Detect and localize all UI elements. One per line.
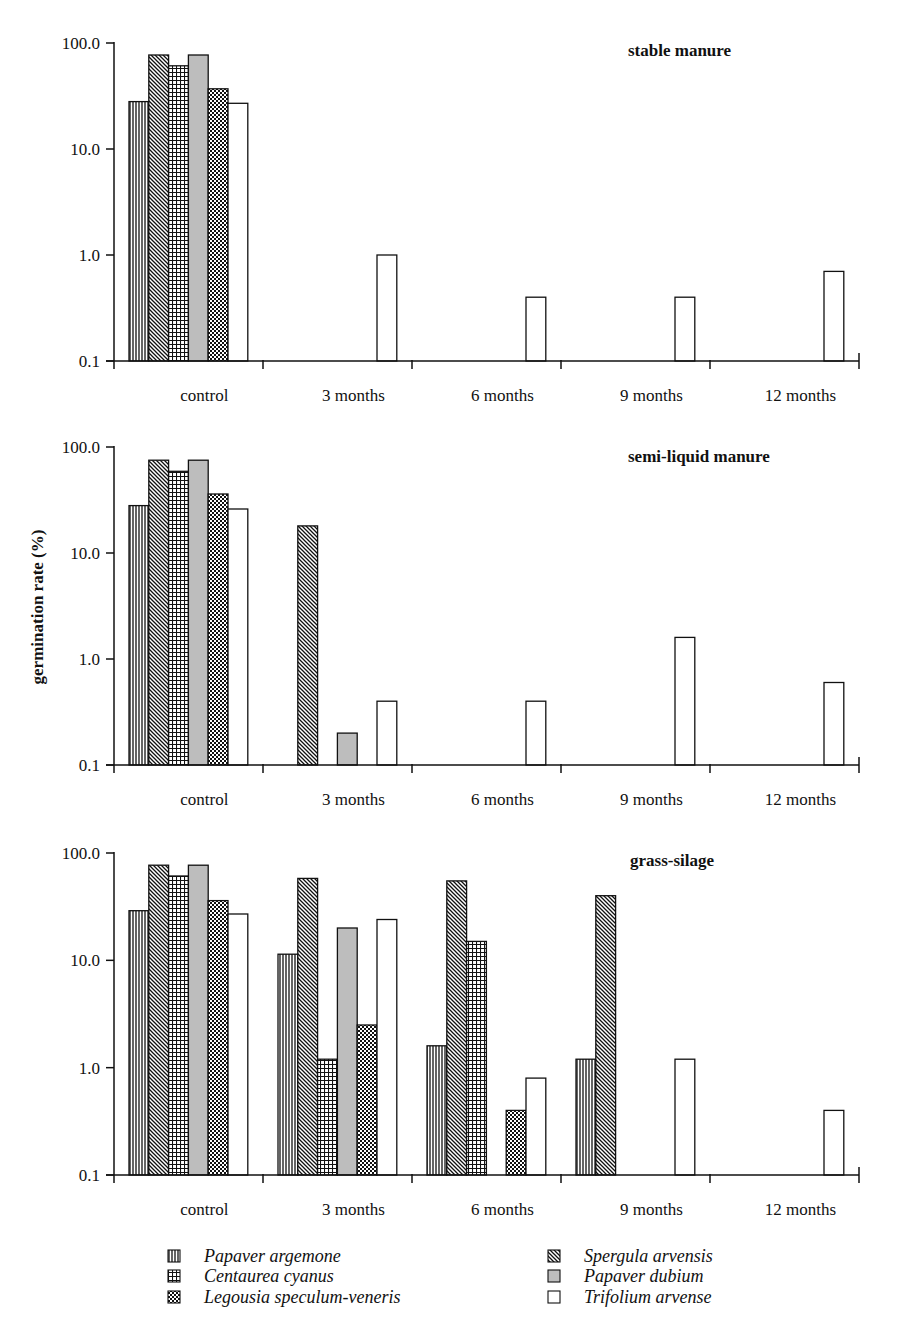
y-tick-label: 0.1 (79, 1166, 100, 1185)
x-tick-label: 9 months (620, 386, 683, 405)
legend-label: Trifolium arvense (584, 1287, 712, 1307)
x-tick-label: 12 months (765, 790, 836, 809)
bar-centaurea-cyanus-6-months (467, 941, 487, 1175)
y-tick-label: 100.0 (62, 438, 100, 457)
bar-legousia-speculum-veneris-control (208, 494, 228, 765)
bar-trifolium-arvense-3-months (377, 255, 397, 361)
bar-papaver-argemone-9-months (576, 1059, 596, 1175)
x-tick-label: 12 months (765, 1200, 836, 1219)
y-tick-label: 1.0 (79, 1059, 100, 1078)
y-axis-label: germination rate (%) (28, 530, 47, 685)
bar-trifolium-arvense-9-months (675, 637, 695, 765)
panels-layer: 100.010.01.00.1control3 months6 months9 … (62, 34, 859, 1219)
legend-label: Legousia speculum-veneris (203, 1287, 400, 1307)
panel-2: 100.010.01.00.1control3 months6 months9 … (62, 438, 859, 809)
x-tick-label: 6 months (471, 790, 534, 809)
x-tick-label: 6 months (471, 386, 534, 405)
x-tick-label: 12 months (765, 386, 836, 405)
legend-swatch (168, 1250, 180, 1262)
y-tick-label: 10.0 (70, 544, 100, 563)
bar-trifolium-arvense-12-months (824, 1110, 844, 1175)
bar-papaver-argemone-6-months (427, 1046, 447, 1175)
bar-spergula-arvensis-control (149, 460, 169, 765)
panel-title: grass-silage (630, 851, 715, 870)
bar-trifolium-arvense-12-months (824, 271, 844, 361)
bar-centaurea-cyanus-control (169, 471, 189, 765)
bar-papaver-argemone-control (129, 102, 149, 361)
x-tick-label: 3 months (322, 386, 385, 405)
panel-title: stable manure (628, 41, 732, 60)
bar-spergula-arvensis-control (149, 55, 169, 361)
y-tick-label: 100.0 (62, 844, 100, 863)
legend-item: Centaurea cyanus (168, 1266, 334, 1286)
bar-trifolium-arvense-control (228, 103, 248, 361)
bar-papaver-argemone-3-months (278, 954, 298, 1175)
bar-spergula-arvensis-3-months (298, 878, 318, 1175)
y-tick-label: 10.0 (70, 951, 100, 970)
bar-trifolium-arvense-control (228, 914, 248, 1175)
legend-swatch (548, 1250, 560, 1262)
legend-label: Papaver dubium (583, 1266, 703, 1286)
y-tick-label: 1.0 (79, 650, 100, 669)
bar-legousia-speculum-veneris-6-months (506, 1110, 526, 1175)
legend-item: Papaver argemone (168, 1246, 341, 1266)
panel-1: 100.010.01.00.1control3 months6 months9 … (62, 34, 859, 405)
bar-papaver-argemone-control (129, 506, 149, 765)
legend-item: Legousia speculum-veneris (168, 1287, 400, 1307)
x-tick-label: control (180, 1200, 228, 1219)
legend-label: Centaurea cyanus (204, 1266, 334, 1286)
legend: Papaver argemoneCentaurea cyanusLegousia… (168, 1246, 713, 1307)
bar-trifolium-arvense-9-months (675, 1059, 695, 1175)
bar-trifolium-arvense-3-months (377, 701, 397, 765)
bar-trifolium-arvense-control (228, 509, 248, 765)
x-tick-label: 3 months (322, 790, 385, 809)
bar-papaver-dubium-control (188, 865, 208, 1175)
legend-swatch (548, 1270, 560, 1282)
bar-trifolium-arvense-6-months (526, 701, 546, 765)
chart: 100.010.01.00.1control3 months6 months9 … (0, 0, 901, 1337)
legend-swatch (168, 1270, 180, 1282)
bar-trifolium-arvense-3-months (377, 920, 397, 1176)
bar-centaurea-cyanus-control (169, 876, 189, 1175)
bar-legousia-speculum-veneris-control (208, 89, 228, 361)
bar-trifolium-arvense-6-months (526, 1078, 546, 1175)
y-tick-label: 10.0 (70, 140, 100, 159)
y-tick-label: 1.0 (79, 246, 100, 265)
bar-papaver-dubium-3-months (337, 928, 357, 1175)
bar-papaver-dubium-control (188, 460, 208, 765)
x-tick-label: control (180, 790, 228, 809)
bar-spergula-arvensis-3-months (298, 526, 318, 765)
bar-centaurea-cyanus-3-months (318, 1059, 338, 1175)
panel-3: 100.010.01.00.1control3 months6 months9 … (62, 844, 859, 1219)
legend-label: Papaver argemone (203, 1246, 341, 1266)
bar-legousia-speculum-veneris-3-months (357, 1025, 377, 1175)
bar-spergula-arvensis-6-months (447, 881, 467, 1175)
bar-trifolium-arvense-12-months (824, 683, 844, 766)
legend-label: Spergula arvensis (584, 1246, 713, 1266)
x-tick-label: 9 months (620, 1200, 683, 1219)
x-tick-label: 9 months (620, 790, 683, 809)
x-tick-label: control (180, 386, 228, 405)
bar-trifolium-arvense-6-months (526, 297, 546, 361)
bar-papaver-dubium-control (188, 55, 208, 361)
y-tick-label: 0.1 (79, 352, 100, 371)
legend-swatch (548, 1291, 560, 1303)
legend-item: Papaver dubium (548, 1266, 703, 1286)
legend-item: Spergula arvensis (548, 1246, 713, 1266)
bar-papaver-argemone-control (129, 911, 149, 1175)
bar-centaurea-cyanus-control (169, 66, 189, 361)
bar-spergula-arvensis-control (149, 865, 169, 1175)
legend-item: Trifolium arvense (548, 1287, 712, 1307)
panel-title: semi-liquid manure (628, 447, 770, 466)
y-tick-label: 100.0 (62, 34, 100, 53)
x-tick-label: 6 months (471, 1200, 534, 1219)
y-tick-label: 0.1 (79, 756, 100, 775)
x-tick-label: 3 months (322, 1200, 385, 1219)
bar-trifolium-arvense-9-months (675, 297, 695, 361)
bar-legousia-speculum-veneris-control (208, 901, 228, 1175)
bar-spergula-arvensis-9-months (596, 896, 616, 1175)
bar-papaver-dubium-3-months (337, 733, 357, 765)
legend-swatch (168, 1291, 180, 1303)
